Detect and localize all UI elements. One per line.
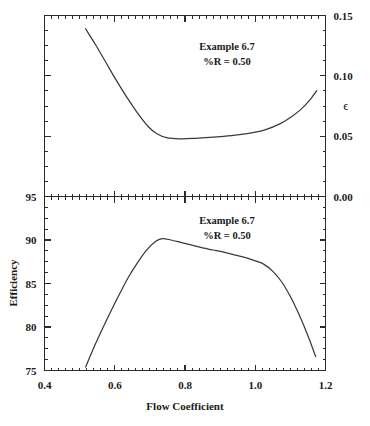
figure-container: 0.000.050.100.15 Example 6.7 %R = 0.50 ϵ… — [0, 0, 370, 426]
x-tick-labels: 0.40.60.81.01.2 — [38, 379, 333, 391]
upper-y-tick-label: 0.15 — [334, 10, 354, 22]
lower-y-tick-labels: 7580859095 — [26, 191, 38, 377]
x-axis-title: Flow Coefficient — [146, 400, 224, 412]
x-tick-label: 0.4 — [38, 379, 52, 391]
lower-panel-axes — [44, 196, 326, 371]
upper-annotation-example: Example 6.7 — [199, 41, 254, 52]
lower-y-tick-label: 75 — [26, 365, 38, 377]
lower-annotation-example: Example 6.7 — [199, 215, 254, 226]
efficiency-curve — [86, 239, 316, 367]
upper-annotation-reaction: %R = 0.50 — [203, 56, 251, 67]
lower-y-axis-title: Efficiency — [7, 259, 19, 307]
lower-y-tick-label: 80 — [26, 321, 38, 333]
upper-y-axis-title: ϵ — [343, 98, 348, 113]
x-tick-label: 1.0 — [248, 379, 262, 391]
upper-panel: 0.000.050.100.15 Example 6.7 %R = 0.50 ϵ — [44, 10, 353, 203]
x-tick-label: 1.2 — [319, 379, 333, 391]
x-tick-label: 0.6 — [108, 379, 122, 391]
upper-y-tick-label: 0.10 — [334, 70, 354, 82]
upper-y-tick-label: 0.05 — [334, 130, 354, 142]
lower-y-tick-label: 90 — [26, 234, 38, 246]
x-tick-label: 0.8 — [178, 379, 192, 391]
upper-panel-ticks — [45, 16, 326, 197]
lower-y-tick-label: 95 — [26, 191, 38, 203]
upper-y-tick-label: 0.00 — [334, 191, 354, 203]
lower-y-tick-label: 85 — [26, 278, 38, 290]
lower-annotation-reaction: %R = 0.50 — [203, 230, 251, 241]
upper-panel-axes — [44, 15, 326, 197]
dual-panel-line-chart: 0.000.050.100.15 Example 6.7 %R = 0.50 ϵ… — [0, 0, 370, 426]
lower-panel: 7580859095 0.40.60.81.01.2 Example 6.7 %… — [7, 191, 333, 413]
